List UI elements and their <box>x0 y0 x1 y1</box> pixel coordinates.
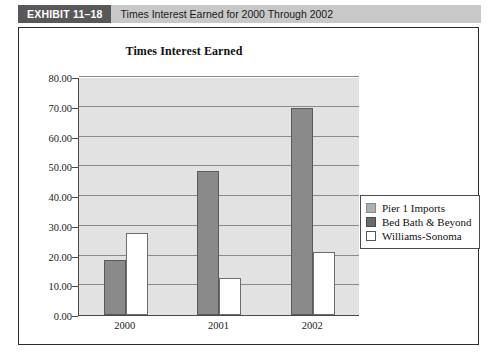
plot-area <box>78 78 359 316</box>
y-axis-tick-mark <box>72 316 78 317</box>
bar <box>197 171 219 315</box>
bar-group-2002 <box>266 78 360 315</box>
legend-label: Williams-Sonoma <box>382 230 462 242</box>
x-axis-tick-label: 2002 <box>302 320 323 331</box>
legend-swatch-icon <box>366 203 376 213</box>
bar <box>291 108 313 315</box>
legend-swatch-icon <box>366 217 376 227</box>
exhibit-number-tag: EXHIBIT 11–18 <box>18 5 111 23</box>
x-axis-tick-labels: 200020012002 <box>78 320 359 338</box>
y-axis-tick-marks <box>19 78 79 316</box>
chart-title: Times Interest Earned <box>19 44 349 59</box>
exhibit-header: EXHIBIT 11–18 Times Interest Earned for … <box>18 5 481 23</box>
bar <box>126 233 148 315</box>
plot-inner <box>79 78 359 315</box>
x-axis-tick-label: 2000 <box>114 320 135 331</box>
chart-legend: Pier 1 ImportsBed Bath & BeyondWilliams-… <box>360 195 480 249</box>
bar-group-2001 <box>173 78 267 315</box>
exhibit-title: Times Interest Earned for 2000 Through 2… <box>111 5 333 23</box>
gridline <box>79 76 359 77</box>
legend-swatch-icon <box>366 231 376 241</box>
x-axis-tick-label: 2001 <box>208 320 229 331</box>
legend-item[interactable]: Bed Bath & Beyond <box>366 215 472 229</box>
bar <box>313 252 335 315</box>
bar <box>219 278 241 315</box>
chart-figure-frame: Times Interest Earned 0.0010.0020.0030.0… <box>18 27 479 345</box>
legend-label: Pier 1 Imports <box>382 202 445 214</box>
legend-label: Bed Bath & Beyond <box>382 216 472 228</box>
legend-item[interactable]: Pier 1 Imports <box>366 201 472 215</box>
legend-item[interactable]: Williams-Sonoma <box>366 229 472 243</box>
bar-group-2000 <box>79 78 173 315</box>
bar <box>104 260 126 315</box>
